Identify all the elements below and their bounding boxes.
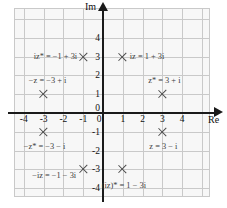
data-point-annotation: −z = −3 + i: [29, 76, 67, 85]
y-axis-tick-label: -1: [87, 127, 100, 137]
data-point-marker: [78, 164, 89, 175]
data-point-marker: [117, 164, 128, 175]
plot-panel: [14, 8, 210, 197]
y-axis-tick-label: -2: [87, 146, 100, 156]
horizontal-gridline: [14, 169, 210, 170]
data-point-marker: [117, 51, 128, 62]
imaginary-axis-line: [102, 6, 104, 202]
complex-plane-figure: Re Im -4-3-2-1012344321-1-2-3-40 iz* = −…: [0, 0, 227, 208]
x-axis-tick-label: -1: [79, 114, 87, 124]
x-axis-tick-label: -3: [40, 114, 48, 124]
x-axis-tick-label: -2: [59, 114, 67, 124]
data-point-annotation: z* = 3 + i: [148, 76, 180, 85]
data-point-annotation: −z* = −3 − i: [24, 142, 66, 151]
data-point-marker: [157, 89, 168, 100]
imaginary-axis-arrow-icon: [98, 2, 108, 11]
data-point-marker: [157, 126, 168, 137]
x-axis-tick-label: 0: [97, 114, 102, 124]
x-axis-tick-label: 2: [140, 114, 145, 124]
y-axis-tick-label: -3: [87, 164, 100, 174]
x-axis-tick-label: 3: [160, 114, 165, 124]
horizontal-gridline: [14, 19, 210, 20]
origin-tick-label: 0: [87, 103, 100, 113]
y-axis-tick-label: 2: [87, 70, 100, 80]
data-point-annotation: (iz)* = 1 − 3i: [102, 181, 146, 190]
data-point-marker: [78, 51, 89, 62]
data-point-annotation: z = 3 − i: [149, 142, 177, 151]
horizontal-gridline: [14, 38, 210, 39]
x-axis-tick-label: -4: [20, 114, 28, 124]
y-axis-tick-label: 4: [87, 33, 100, 43]
imaginary-axis-label: Im: [85, 1, 96, 12]
y-axis-tick-label: 1: [87, 89, 100, 99]
data-point-annotation: iz* = −1 + 3i: [34, 52, 77, 61]
data-point-annotation: −iz = −1 − 3i: [32, 171, 76, 180]
data-point-marker: [38, 89, 49, 100]
data-point-annotation: iz = 1 + 3i: [130, 52, 165, 61]
real-axis-label: Re: [208, 114, 219, 125]
y-axis-tick-label: -4: [87, 183, 100, 193]
x-axis-tick-label: 1: [120, 114, 125, 124]
x-axis-tick-label: 4: [180, 114, 185, 124]
y-axis-tick-label: 3: [87, 52, 100, 62]
data-point-marker: [38, 126, 49, 137]
